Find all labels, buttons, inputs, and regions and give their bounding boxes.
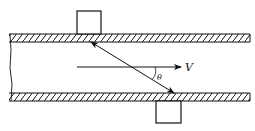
pipe-break-left xyxy=(10,34,12,101)
upstream-transducer xyxy=(77,11,101,34)
downstream-transducer xyxy=(156,101,181,123)
velocity-label: V xyxy=(185,61,194,74)
angle-arc xyxy=(153,67,156,79)
flowmeter-diagram: V θ xyxy=(0,0,255,131)
pipe-top-wall xyxy=(9,34,250,42)
pipe-bottom-wall xyxy=(9,93,250,101)
angle-label: θ xyxy=(157,73,162,82)
